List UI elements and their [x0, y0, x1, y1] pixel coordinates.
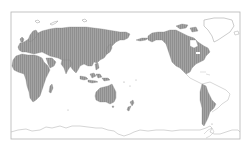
pacific-island	[123, 81, 124, 82]
pacific-island	[136, 80, 137, 81]
pacific-island	[130, 86, 131, 87]
falkland-islands	[211, 123, 212, 124]
world-map	[0, 0, 251, 159]
island	[68, 110, 69, 111]
great-lakes	[196, 52, 200, 54]
